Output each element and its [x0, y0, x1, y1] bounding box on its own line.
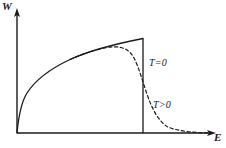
density-of-states-figure: W E T=0 T>0 [0, 0, 226, 148]
plot-canvas [0, 0, 226, 148]
t-positive-curve [70, 47, 209, 133]
x-axis-label: E [214, 132, 221, 143]
y-axis-label: W [2, 1, 12, 12]
x-axis [17, 130, 216, 136]
series-t-greater-zero [70, 47, 209, 133]
t-zero-curve [17, 39, 143, 134]
series-t-equals-zero [17, 39, 143, 134]
t-zero-label: T=0 [149, 58, 167, 68]
t-positive-label: T>0 [153, 100, 171, 110]
